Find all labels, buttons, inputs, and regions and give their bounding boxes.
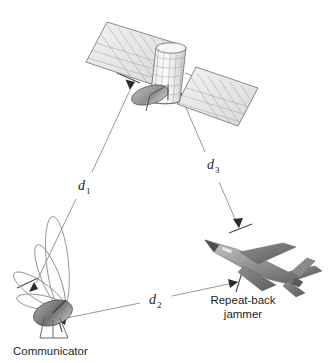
communicator-label: Communicator (13, 345, 88, 357)
label-d3-subscript: 3 (215, 165, 220, 175)
antenna-radiation-pattern (9, 215, 73, 314)
jammer-label-line1: Repeat-back (210, 294, 275, 306)
communicator-station (9, 215, 76, 338)
label-d2-symbol: d (149, 292, 157, 307)
solar-panel-right (170, 67, 281, 145)
label-d3: d 3 (207, 157, 220, 175)
label-d2: d 2 (149, 292, 162, 310)
satellite (80, 22, 281, 145)
label-d1-symbol: d (78, 178, 86, 193)
jammer-label-line2: jammer (223, 308, 263, 320)
label-d3-symbol: d (207, 157, 215, 172)
label-d1: d 1 (78, 178, 91, 196)
diagram-canvas: d 1 d 2 d 3 Communicator Repeat-back jam… (0, 0, 335, 363)
label-d1-subscript: 1 (86, 186, 91, 196)
label-d2-subscript: 2 (157, 300, 162, 310)
jammer-aircraft (205, 240, 322, 297)
satellite-jammer-diagram: d 1 d 2 d 3 Communicator Repeat-back jam… (0, 0, 335, 363)
